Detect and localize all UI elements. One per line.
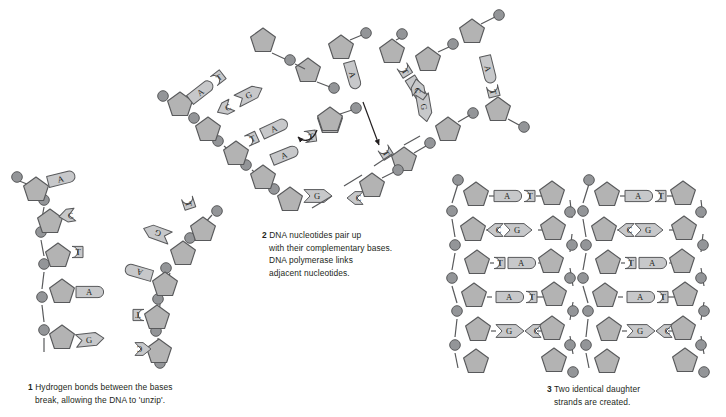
base-thymine-icon <box>72 246 83 257</box>
circle-phosphate-icon <box>581 340 592 351</box>
base-thymine-icon <box>657 291 668 302</box>
panel-2-nucleotides-pairing <box>158 10 530 211</box>
base-adenine-icon <box>494 190 522 201</box>
pentagon-sugar-icon <box>673 282 698 306</box>
pentagon-sugar-icon <box>38 209 63 233</box>
pentagon-sugar-icon <box>464 349 489 373</box>
base-cytosine-icon <box>347 192 363 205</box>
base-cytosine-icon <box>618 224 634 237</box>
base-adenine-icon <box>639 257 667 268</box>
base-thymine-icon <box>182 196 196 210</box>
circle-phosphate-icon <box>425 138 436 149</box>
pentagon-sugar-icon <box>673 348 698 372</box>
circle-phosphate-icon <box>565 207 576 218</box>
base-thymine-icon <box>397 63 412 78</box>
base-thymine-icon <box>625 257 636 268</box>
pentagon-sugar-icon <box>461 217 486 241</box>
base-adenine-icon <box>508 257 536 268</box>
pentagon-sugar-icon <box>540 181 565 205</box>
base-adenine-icon <box>344 60 362 90</box>
circle-phosphate-icon <box>699 306 710 317</box>
base-cytosine-icon <box>656 325 672 338</box>
pentagon-sugar-icon <box>171 241 196 265</box>
pentagon-sugar-icon <box>592 217 617 241</box>
circle-phosphate-icon <box>696 207 707 218</box>
circle-phosphate-icon <box>453 175 464 186</box>
pentagon-sugar-icon <box>542 282 567 306</box>
pentagon-sugar-icon <box>251 28 276 52</box>
panel-3-number: 3 <box>547 384 552 394</box>
base-guanine-icon <box>75 332 104 348</box>
base-guanine-icon <box>234 83 265 107</box>
pentagon-sugar-icon <box>671 181 696 205</box>
circle-phosphate-icon <box>584 175 595 186</box>
base-guanine-icon <box>304 190 332 203</box>
base-guanine-icon <box>635 224 663 237</box>
panel-2-caption-line-2: with their complementary bases. <box>262 242 392 255</box>
panel-1-caption-line-1: Hydrogen bonds between the bases <box>35 382 172 392</box>
circle-phosphate-icon <box>565 340 576 351</box>
base-cytosine-icon <box>525 325 541 338</box>
base-guanine-icon <box>504 224 532 237</box>
base-thymine-icon <box>133 309 144 320</box>
circle-phosphate-icon <box>450 340 461 351</box>
pentagon-sugar-icon <box>465 250 490 274</box>
panel-3-caption: 3 Two identical daughter strands are cre… <box>547 383 640 408</box>
pentagon-sugar-icon <box>486 97 511 121</box>
panel-2-caption-line-4: adjacent nucleotides. <box>262 267 392 280</box>
base-adenine-icon <box>627 291 655 302</box>
base-cytosine-icon <box>487 224 503 237</box>
base-adenine-icon <box>625 190 653 201</box>
pentagon-sugar-icon <box>191 217 216 241</box>
circle-phosphate-icon <box>158 91 169 102</box>
panel-3-caption-line-2: strands are created. <box>547 396 640 409</box>
free-nucleotide-sugar <box>318 107 343 131</box>
pentagon-sugar-icon <box>462 283 487 307</box>
panel-2-caption-line-3: DNA polymerase links <box>262 254 392 267</box>
pentagon-sugar-icon <box>542 348 567 372</box>
arrow-icon <box>363 102 379 145</box>
base-adenine-icon <box>124 263 154 281</box>
base-thymine-icon <box>211 70 227 86</box>
base-guanine-icon <box>141 222 172 244</box>
panel-3-daughter-duplexes <box>447 175 710 378</box>
panel-1-caption-line-2: break, allowing the DNA to 'unzip'. <box>28 394 173 407</box>
circle-phosphate-icon <box>699 367 710 378</box>
base-thymine-icon <box>526 291 537 302</box>
pentagon-sugar-icon <box>50 279 75 303</box>
base-thymine-icon <box>655 190 666 201</box>
circle-phosphate-icon <box>39 259 50 270</box>
pentagon-sugar-icon <box>251 165 276 189</box>
base-adenine-icon <box>496 291 524 302</box>
pentagon-sugar-icon <box>360 173 385 197</box>
free-nucleotide-a <box>329 28 372 90</box>
pentagon-sugar-icon <box>597 317 622 341</box>
panel-2-caption: 2 DNA nucleotides pair up with their com… <box>262 229 392 279</box>
circle-phosphate-icon <box>448 39 459 50</box>
pentagon-sugar-icon <box>460 19 485 43</box>
dna-replication-svg: A T G C <box>0 0 726 417</box>
base-thymine-icon <box>487 85 501 98</box>
circle-phosphate-icon <box>37 292 48 303</box>
circle-phosphate-icon <box>696 340 707 351</box>
pentagon-sugar-icon <box>671 316 696 340</box>
pentagon-sugar-icon <box>196 117 221 141</box>
pentagon-sugar-icon <box>147 339 172 363</box>
panel-1-unzipping-dna <box>12 170 223 368</box>
pentagon-sugar-icon <box>539 249 564 273</box>
circle-phosphate-icon <box>565 273 576 284</box>
base-adenine-icon <box>270 144 300 165</box>
pentagon-sugar-icon <box>436 117 461 141</box>
circle-phosphate-icon <box>12 172 23 183</box>
pentagon-sugar-icon <box>595 349 620 373</box>
panel-2-caption-line-1: DNA nucleotides pair up <box>269 230 361 240</box>
circle-phosphate-icon <box>447 273 458 284</box>
base-thymine-icon <box>524 190 535 201</box>
panel-3-caption-line-1: Two identical daughter <box>554 384 640 394</box>
base-adenine-icon <box>187 79 216 105</box>
circle-phosphate-icon <box>568 306 579 317</box>
circle-phosphate-icon <box>696 273 707 284</box>
daughter-duplex-2 <box>578 175 710 378</box>
circle-phosphate-icon <box>447 206 458 217</box>
panel-1-caption: 1 Hydrogen bonds between the bases break… <box>28 381 173 406</box>
